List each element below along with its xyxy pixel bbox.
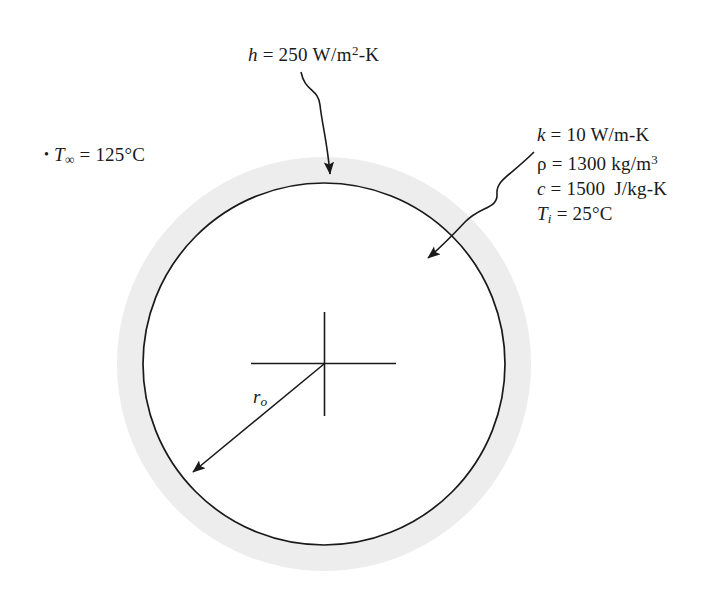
convection-value: 250	[279, 44, 308, 65]
convection-coefficient-label: h = 250 W/m2-K	[248, 38, 379, 67]
property-unit-rho: kg/m	[611, 153, 651, 174]
radius-label: ro	[253, 384, 267, 414]
property-symbol-ti: T	[537, 203, 548, 224]
sphere-conduction-figure: h = 250 W/m2-K •T∞ = 125°C k = 10 W/m-K …	[0, 0, 719, 595]
property-symbol-k: k	[537, 124, 546, 145]
property-unit-k: W/m-K	[590, 124, 649, 145]
property-unit-c: J/kg-K	[614, 178, 667, 199]
convection-equals: =	[263, 44, 274, 65]
property-symbol-rho: ρ	[537, 153, 547, 174]
property-row-rho: ρ = 1300 kg/m3	[537, 147, 667, 176]
property-row-ti: Ti = 25°C	[537, 201, 667, 231]
ambient-temperature-label: •T∞ = 125°C	[44, 142, 145, 172]
radius-subscript: o	[261, 394, 268, 409]
property-subscript-ti: i	[548, 212, 552, 227]
convection-unit-exponent: 2	[352, 43, 359, 58]
property-value-c: 1500	[566, 178, 605, 199]
ambient-temp-equals: =	[80, 144, 91, 165]
radius-symbol: r	[253, 386, 261, 407]
material-properties-label: k = 10 W/m-K ρ = 1300 kg/m3 c = 1500 J/k…	[537, 122, 667, 232]
convection-unit-suffix: -K	[359, 44, 379, 65]
convection-symbol: h	[248, 44, 258, 65]
property-equals-rho: =	[552, 153, 563, 174]
property-equals-ti: =	[557, 203, 568, 224]
diagram-canvas	[0, 0, 719, 595]
property-row-c: c = 1500 J/kg-K	[537, 176, 667, 201]
property-value-ti: 25°C	[573, 203, 613, 224]
convection-unit-prefix: W/m	[313, 44, 353, 65]
bullet-icon: •	[44, 147, 49, 162]
property-row-k: k = 10 W/m-K	[537, 122, 667, 147]
property-symbol-c: c	[537, 178, 546, 199]
property-value-rho: 1300	[568, 153, 607, 174]
property-unit-exponent-rho: 3	[651, 152, 658, 167]
ambient-temp-symbol: T	[54, 144, 65, 165]
property-value-k: 10	[566, 124, 585, 145]
ambient-temp-value: 125°C	[95, 144, 145, 165]
property-equals-k: =	[551, 124, 562, 145]
ambient-temp-subscript: ∞	[65, 152, 75, 167]
property-equals-c: =	[551, 178, 562, 199]
